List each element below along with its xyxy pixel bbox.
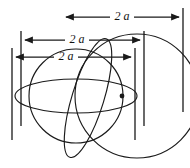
diagram-canvas: 2 a 2 a 2 a [0,0,190,168]
dimension-middle-label: 2 a [70,32,85,46]
sphere-outline-shape [29,49,123,143]
sphere-center-dot [120,94,125,99]
sphere-diameter-figure: 2 a 2 a 2 a [0,0,190,168]
dimension-bottom: 2 a [16,49,131,63]
geometry-group [15,34,190,162]
dimension-middle: 2 a [25,32,140,46]
dimension-bottom-label: 2 a [59,49,74,63]
dimension-top: 2 a [66,9,179,23]
second-circle-shape [75,34,190,158]
dimension-top-label: 2 a [115,9,130,23]
